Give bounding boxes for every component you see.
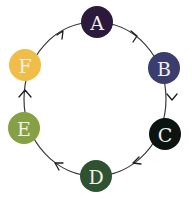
edge-e-f: [19, 90, 31, 97]
node-c-label: C: [158, 124, 173, 146]
cycle-ring: [24, 22, 166, 176]
node-a-label: A: [89, 12, 104, 34]
node-f: F: [9, 49, 41, 81]
arrow-e-to-f-icon: [19, 90, 31, 97]
node-b: B: [148, 52, 180, 84]
node-b-label: B: [157, 58, 171, 80]
edge-d-e: [55, 163, 63, 170]
node-e: E: [8, 112, 40, 144]
cycle-diagram: A B C D E F: [0, 0, 192, 203]
arrow-b-to-c-icon: [167, 94, 177, 100]
node-e-label: E: [17, 118, 31, 140]
node-d: D: [80, 160, 112, 192]
node-f-label: F: [18, 55, 31, 77]
node-a: A: [81, 6, 113, 38]
arrow-d-to-e-icon: [55, 163, 63, 170]
node-c: C: [149, 118, 181, 150]
node-d-label: D: [88, 166, 103, 188]
edge-b-c: [167, 94, 177, 100]
